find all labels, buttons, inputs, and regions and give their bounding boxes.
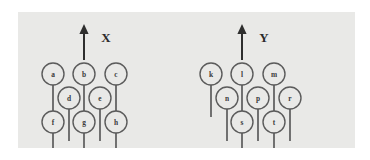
node-label: m bbox=[271, 70, 278, 79]
node-label: l bbox=[241, 70, 243, 79]
axis-label: X bbox=[101, 30, 111, 45]
node-label: h bbox=[114, 118, 118, 127]
node-label: p bbox=[256, 94, 260, 103]
node-g: g bbox=[73, 111, 95, 148]
right-diagram: Yklmnprst bbox=[200, 24, 301, 148]
node-label: g bbox=[82, 118, 86, 127]
node-s: s bbox=[231, 111, 253, 148]
node-label: b bbox=[82, 70, 86, 79]
axis-label: Y bbox=[259, 30, 269, 45]
axis-arrow-head-icon bbox=[237, 24, 246, 34]
node-label: s bbox=[241, 118, 244, 127]
node-h: h bbox=[105, 111, 127, 148]
left-diagram: Xabcdefgh bbox=[42, 24, 127, 148]
node-label: n bbox=[225, 94, 229, 103]
axis-arrow-head-icon bbox=[79, 24, 88, 34]
figure-panel: XabcdefghYklmnprst bbox=[18, 12, 355, 148]
diagram-canvas: XabcdefghYklmnprst bbox=[18, 12, 355, 148]
node-f: f bbox=[42, 111, 64, 148]
node-t: t bbox=[263, 111, 285, 148]
node-label: a bbox=[51, 70, 55, 79]
